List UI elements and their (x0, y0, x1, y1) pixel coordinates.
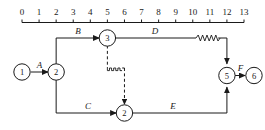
axis-tick-labels: 0 1 2 3 4 5 6 7 8 9 10 11 12 13 (20, 7, 249, 17)
tick-label-7: 7 (139, 7, 144, 17)
node-1-label: 1 (20, 67, 24, 77)
float-squiggle-dummy (107, 68, 122, 71)
node-2-top[interactable]: 2 (48, 64, 64, 80)
node-5[interactable]: 5 (219, 67, 235, 83)
tick-label-1: 1 (37, 7, 42, 17)
activity-label-d: D (151, 26, 159, 36)
tick-label-6: 6 (122, 7, 127, 17)
tick-label-11: 11 (206, 7, 215, 17)
tick-label-5: 5 (105, 7, 110, 17)
node-2-bottom[interactable]: 2 (116, 105, 132, 121)
activity-label-c: C (85, 101, 92, 111)
activity-label-a: A (36, 60, 43, 70)
node-5-label: 5 (225, 71, 229, 81)
time-axis: 0 1 2 3 4 5 6 7 8 9 10 11 12 13 (20, 7, 249, 23)
node-6-label: 6 (252, 71, 256, 81)
tick-label-2: 2 (54, 7, 59, 17)
tick-label-10: 10 (188, 7, 198, 17)
activity-label-b: B (75, 26, 81, 36)
tick-label-4: 4 (88, 7, 93, 17)
float-squiggle-d (196, 35, 220, 41)
figure-canvas: 0 1 2 3 4 5 6 7 8 9 10 11 12 13 (0, 0, 265, 130)
tick-label-0: 0 (20, 7, 25, 17)
activity-label-e: E (169, 101, 176, 111)
node-1[interactable]: 1 (14, 64, 30, 80)
activity-label-f: F (237, 63, 244, 73)
node-2-top-label: 2 (54, 67, 58, 77)
network-diagram: 0 1 2 3 4 5 6 7 8 9 10 11 12 13 (0, 0, 265, 130)
node-3[interactable]: 3 (99, 30, 115, 46)
tick-label-8: 8 (156, 7, 161, 17)
node-6[interactable]: 6 (246, 67, 262, 83)
tick-label-9: 9 (173, 7, 178, 17)
node-2-bottom-label: 2 (122, 108, 126, 118)
tick-label-12: 12 (222, 7, 231, 17)
tick-label-3: 3 (71, 7, 76, 17)
node-3-label: 3 (105, 33, 109, 43)
tick-label-13: 13 (240, 7, 250, 17)
